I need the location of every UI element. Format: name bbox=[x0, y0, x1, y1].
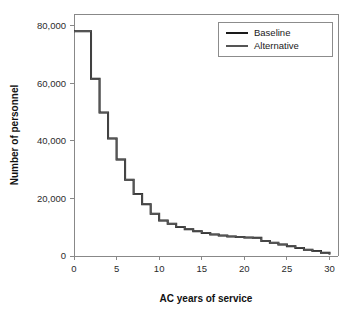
chart-figure: 020,00040,00060,00080,000 051015202530 B… bbox=[0, 0, 349, 310]
chart-legend: BaselineAlternative bbox=[218, 22, 332, 56]
x-tick-label: 0 bbox=[71, 263, 76, 274]
legend-label-alternative: Alternative bbox=[254, 40, 299, 51]
y-tick-label: 80,000 bbox=[37, 20, 66, 31]
legend-label-baseline: Baseline bbox=[254, 27, 290, 38]
personnel-step-chart: 020,00040,00060,00080,000 051015202530 B… bbox=[0, 0, 349, 310]
y-axis-ticks: 020,00040,00060,00080,000 bbox=[37, 20, 74, 261]
x-axis-ticks: 051015202530 bbox=[71, 256, 334, 274]
y-tick-label: 20,000 bbox=[37, 193, 66, 204]
y-tick-label: 40,000 bbox=[37, 135, 66, 146]
x-tick-label: 5 bbox=[114, 263, 119, 274]
series-line-baseline bbox=[74, 31, 329, 254]
series-line-alternative bbox=[74, 31, 329, 254]
y-tick-label: 60,000 bbox=[37, 78, 66, 89]
series-group bbox=[74, 31, 329, 254]
x-axis-title: AC years of service bbox=[160, 293, 253, 304]
x-tick-label: 30 bbox=[324, 263, 335, 274]
x-tick-label: 25 bbox=[282, 263, 293, 274]
y-axis-title: Number of personnel bbox=[9, 85, 20, 186]
x-tick-label: 20 bbox=[239, 263, 250, 274]
x-tick-label: 15 bbox=[196, 263, 207, 274]
x-tick-label: 10 bbox=[154, 263, 165, 274]
y-tick-label: 0 bbox=[61, 250, 66, 261]
